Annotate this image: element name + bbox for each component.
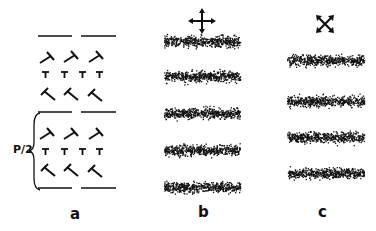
period-label: P/2	[13, 143, 33, 156]
panel-b: b	[150, 0, 260, 231]
panel-c: c	[270, 0, 376, 231]
diagonal-crossed-arrows-icon	[316, 15, 334, 33]
dislocation-diagram	[0, 0, 140, 200]
panel-a: P/2 a	[0, 0, 140, 231]
stippled-bands-b	[150, 0, 260, 205]
panel-label-a: a	[70, 205, 80, 223]
panel-label-c: c	[318, 203, 327, 221]
crossed-arrows-icon	[188, 8, 216, 34]
stippled-bands-c	[270, 0, 376, 205]
panel-label-b: b	[198, 203, 209, 221]
